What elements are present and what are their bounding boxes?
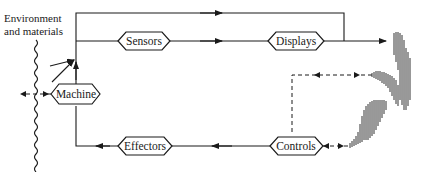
environment-boundary — [35, 40, 38, 172]
operator-to-controls-dashed-line — [292, 75, 372, 132]
operator-silhouette-hatched — [350, 32, 410, 148]
node-label-controls: Controls — [276, 140, 316, 152]
machine-out-arrowhead — [20, 91, 26, 97]
node-controls: Controls — [270, 137, 323, 155]
controls-dashed-arrowhead-left — [323, 143, 329, 149]
node-machine: Machine — [51, 84, 100, 104]
node-label-effectors: Effectors — [124, 140, 166, 152]
node-label-sensors: Sensors — [126, 35, 162, 47]
node-displays: Displays — [268, 32, 324, 50]
node-label-machine: Machine — [56, 88, 96, 100]
dashed-arrowhead-left — [314, 72, 320, 78]
environment-label-line2: and materials — [4, 25, 63, 37]
environment-label-line1: Environment — [4, 12, 61, 24]
node-label-displays: Displays — [276, 35, 317, 48]
human-machine-system-diagram: Environment and materials Sensors Displa… — [0, 0, 424, 172]
node-effectors: Effectors — [118, 137, 172, 155]
controls-dashed-arrowhead-right — [338, 143, 344, 149]
node-sensors: Sensors — [118, 32, 170, 50]
dashed-arrowhead-right — [354, 72, 360, 78]
effectors-to-machine-line — [76, 106, 118, 146]
machine-in-arrowhead — [43, 91, 49, 97]
